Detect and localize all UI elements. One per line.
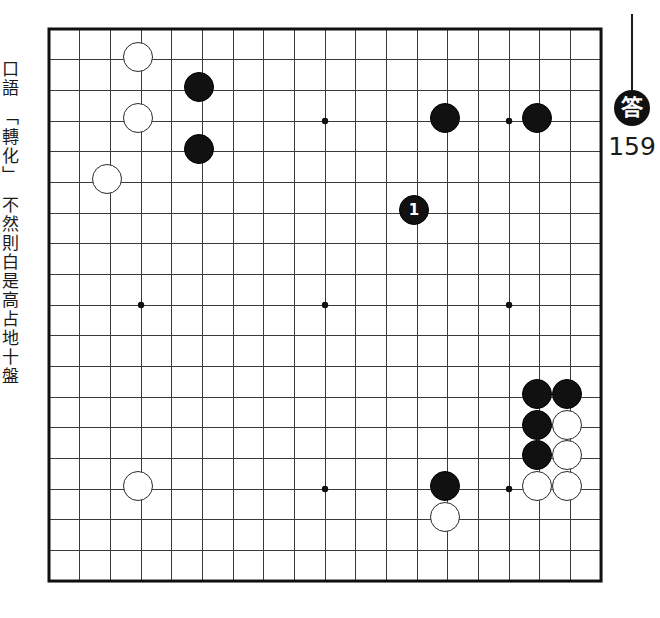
stone-white-17-13[interactable]: [552, 410, 582, 440]
stone-white-3-1[interactable]: [123, 42, 153, 72]
stone-white-3-3[interactable]: [123, 103, 153, 133]
stone-black-16-3[interactable]: [522, 103, 552, 133]
page-root: 口語 「轉化」 不然則白是高占地十盤 1 答 159: [0, 0, 660, 618]
stone-black-16-13[interactable]: [522, 410, 552, 440]
stone-black-16-12[interactable]: [522, 379, 552, 409]
stone-black-13-3[interactable]: [430, 103, 460, 133]
stone-black-13-15[interactable]: [430, 471, 460, 501]
answer-number: 159: [606, 132, 658, 161]
side-caption-text: 口語 「轉化」 不然則白是高占地十盤: [0, 60, 22, 600]
stone-white-13-16[interactable]: [430, 502, 460, 532]
answer-stem-line: [631, 14, 633, 92]
stone-black-5-4[interactable]: [184, 134, 214, 164]
go-board[interactable]: 1: [46, 26, 570, 578]
stone-white-3-15[interactable]: [123, 471, 153, 501]
stone-black-12-6[interactable]: 1: [399, 195, 429, 225]
answer-badge: 答: [614, 90, 650, 126]
stone-white-16-15[interactable]: [522, 471, 552, 501]
stone-black-16-14[interactable]: [522, 440, 552, 470]
stone-move-number: 1: [400, 196, 428, 224]
